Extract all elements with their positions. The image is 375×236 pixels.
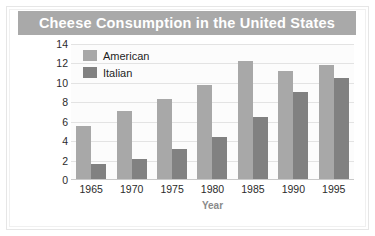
- bar-american-1975: [157, 99, 172, 179]
- bar-american-1970: [117, 111, 132, 179]
- legend-label-american: American: [103, 50, 149, 62]
- legend-swatch-italian: [83, 67, 97, 78]
- bar-group-1975: [152, 44, 192, 179]
- x-axis-tick-1965: 1965: [71, 183, 111, 199]
- x-axis-tick-1975: 1975: [152, 183, 192, 199]
- x-axis-tick-1985: 1985: [233, 183, 273, 199]
- x-axis-tick-labels: 1965197019751980198519901995: [71, 183, 354, 199]
- x-axis-tick-1995: 1995: [314, 183, 354, 199]
- chart-title-banner: Cheese Consumption in the United States: [18, 11, 356, 35]
- y-axis-tick-6: 6: [62, 116, 68, 128]
- chart-title: Cheese Consumption in the United States: [39, 15, 335, 31]
- y-axis-tick-4: 4: [62, 135, 68, 147]
- bar-group-1995: [314, 44, 354, 179]
- bar-italian-1975: [172, 149, 187, 179]
- bar-italian-1990: [293, 92, 308, 179]
- chart-legend: AmericanItalian: [83, 48, 149, 82]
- bar-group-1980: [192, 44, 232, 179]
- x-axis-tick-1980: 1980: [192, 183, 232, 199]
- legend-label-italian: Italian: [103, 67, 132, 79]
- chart-figure: Cheese Consumption in the United States …: [0, 0, 375, 236]
- y-axis-tick-14: 14: [56, 38, 68, 50]
- bar-group-1990: [273, 44, 313, 179]
- plot-axes: AmericanItalian: [71, 44, 354, 180]
- bar-american-1990: [278, 71, 293, 179]
- y-axis-tick-8: 8: [62, 96, 68, 108]
- x-axis-tick-1990: 1990: [273, 183, 313, 199]
- legend-item-italian: Italian: [83, 65, 149, 80]
- y-axis-tick-0: 0: [62, 174, 68, 186]
- bar-american-1985: [238, 61, 253, 180]
- legend-swatch-american: [83, 50, 97, 61]
- bar-american-1965: [76, 126, 91, 179]
- plot-area-wrapper: Average per person per year (in lb) 1412…: [18, 41, 356, 223]
- bar-italian-1980: [212, 137, 227, 179]
- bar-italian-1965: [91, 164, 106, 179]
- bar-group-1985: [233, 44, 273, 179]
- bar-italian-1970: [132, 159, 147, 179]
- x-axis-line: [71, 179, 354, 180]
- x-axis-tick-1970: 1970: [111, 183, 151, 199]
- y-axis-tick-labels: 14121086420: [48, 41, 68, 181]
- y-axis-tick-12: 12: [56, 57, 68, 69]
- bar-italian-1995: [334, 78, 349, 179]
- bar-american-1980: [197, 85, 212, 179]
- y-axis-tick-10: 10: [56, 77, 68, 89]
- legend-item-american: American: [83, 48, 149, 63]
- bar-american-1995: [319, 65, 334, 179]
- y-axis-tick-2: 2: [62, 155, 68, 167]
- x-axis-title: Year: [71, 200, 354, 211]
- bar-italian-1985: [253, 117, 268, 179]
